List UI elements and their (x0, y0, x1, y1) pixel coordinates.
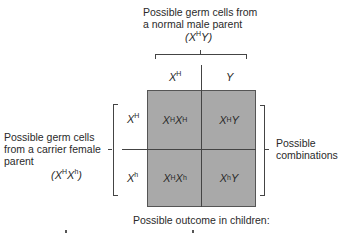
row-header-Xh: Xh (127, 172, 138, 184)
male-genotype: (XHY) (185, 31, 212, 43)
combinations-label: Possible combinations (276, 137, 341, 161)
outcome-label: Possible outcome in children: (133, 214, 270, 226)
right-bracket (264, 105, 265, 196)
right-bracket-bottom-tick (260, 195, 265, 196)
female-parent-label: Possible germ cells from a carrier femal… (4, 131, 114, 167)
row-header-XH: XH (127, 113, 139, 125)
combinations-label-line2: combinations (276, 149, 341, 161)
top-bracket-left-tick (155, 54, 156, 59)
male-parent-label: Possible germ cells from a normal male p… (143, 6, 273, 30)
female-genotype: (XHXh) (51, 169, 82, 181)
cropped-fraction-mark-2 (192, 230, 194, 233)
top-bracket-right-tick (246, 54, 247, 59)
column-header-Y: Y (226, 71, 233, 83)
top-bracket (155, 54, 247, 55)
right-bracket-center-tick (265, 149, 269, 150)
left-bracket-bottom-tick (113, 195, 118, 196)
female-label-line1: Possible germ cells (4, 131, 114, 143)
cell-XH-XH: XHXH (148, 91, 202, 149)
female-label-line3: parent (4, 155, 114, 167)
cropped-fraction-mark-1 (65, 230, 67, 233)
top-bracket-center-tick (200, 50, 201, 54)
female-label-line2: from a carrier female (4, 143, 114, 155)
male-label-line2: a normal male parent (143, 18, 273, 30)
left-bracket-top-tick (113, 104, 118, 105)
right-bracket-top-tick (260, 105, 265, 106)
column-header-XH: XH (169, 71, 181, 83)
cell-Xh-Y: XhY (202, 149, 256, 207)
horizontal-divider (122, 149, 256, 150)
male-label-line1: Possible germ cells from (143, 6, 273, 18)
cell-XH-Xh: XHXh (148, 149, 202, 207)
cell-XH-Y: XHY (202, 91, 256, 149)
combinations-label-line1: Possible (276, 137, 341, 149)
vertical-divider (201, 65, 202, 207)
